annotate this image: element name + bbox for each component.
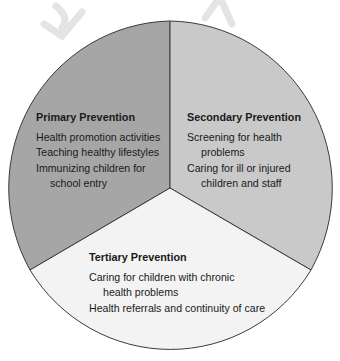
primary-item: school entry: [36, 176, 160, 192]
secondary-prevention-title: Secondary Prevention: [187, 110, 301, 126]
primary-prevention-title: Primary Prevention: [36, 110, 160, 126]
secondary-prevention-block: Secondary Prevention Screening for healt…: [187, 110, 301, 192]
tertiary-item: health problems: [89, 285, 265, 301]
tertiary-prevention-block: Tertiary Prevention Caring for children …: [89, 250, 265, 316]
secondary-item: Screening for health: [187, 130, 301, 146]
primary-item: Teaching healthy lifestyles: [36, 145, 160, 161]
secondary-item: children and staff: [187, 176, 301, 192]
primary-prevention-block: Primary Prevention Health promotion acti…: [36, 110, 160, 192]
primary-item: Health promotion activities: [36, 130, 160, 146]
tertiary-item: Caring for children with chronic: [89, 270, 265, 286]
primary-item: Immunizing children for: [36, 161, 160, 177]
secondary-item: Caring for ill or injured: [187, 161, 301, 177]
tertiary-prevention-title: Tertiary Prevention: [89, 250, 265, 266]
secondary-item: problems: [187, 145, 301, 161]
tertiary-item: Health referrals and continuity of care: [89, 301, 265, 317]
